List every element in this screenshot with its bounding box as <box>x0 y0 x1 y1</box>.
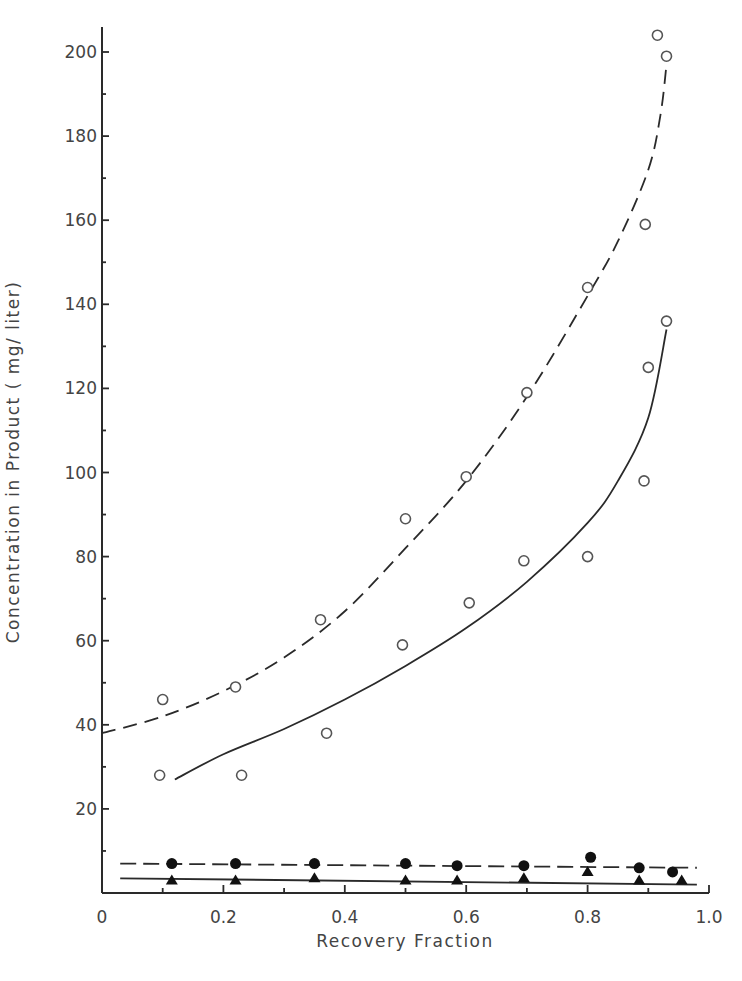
y-tick-label: 100 <box>65 463 97 483</box>
scatter-chart: 2040608010012014016018020000.20.40.60.81… <box>0 0 742 981</box>
open-circle-marker <box>401 514 411 524</box>
y-tick-label: 180 <box>65 126 97 146</box>
filled-circle-marker <box>634 862 645 873</box>
axes: 2040608010012014016018020000.20.40.60.81… <box>65 27 723 927</box>
x-axis-label: Recovery Fraction <box>316 931 494 951</box>
filled-circle-marker <box>667 866 678 877</box>
open-circle-marker <box>662 316 672 326</box>
filled-circle-marker <box>518 860 529 871</box>
filled-triangle-marker <box>400 874 412 884</box>
open-circle-marker <box>522 388 532 398</box>
y-tick-label: 160 <box>65 210 97 230</box>
filled-circle-marker <box>230 858 241 869</box>
open-circle-marker <box>652 30 662 40</box>
open-circle-marker <box>464 598 474 608</box>
x-tick-label: 0.4 <box>331 907 358 927</box>
data-points <box>155 30 688 884</box>
y-tick-label: 60 <box>75 631 97 651</box>
x-tick-label: 0.2 <box>210 907 237 927</box>
y-tick-label: 40 <box>75 715 97 735</box>
filled-triangle-marker <box>451 874 463 884</box>
open-circle-marker <box>316 615 326 625</box>
y-axis-label: Concentration in Product ( mg/ liter) <box>3 281 23 644</box>
filled-circle-marker <box>309 858 320 869</box>
x-tick-label: 1.0 <box>695 907 722 927</box>
filled-circle-marker <box>166 858 177 869</box>
open-circle-marker <box>662 51 672 61</box>
y-tick-label: 80 <box>75 547 97 567</box>
filled-triangle-marker <box>308 872 320 882</box>
open-circle-marker <box>397 640 407 650</box>
filled-triangle-marker <box>518 872 530 882</box>
open-circle-marker <box>640 219 650 229</box>
filled-circle-marker <box>585 852 596 863</box>
fit-curves <box>102 65 697 885</box>
y-tick-label: 120 <box>65 378 97 398</box>
filled-triangle-marker <box>676 874 688 884</box>
open-circle-marker <box>231 682 241 692</box>
y-tick-label: 200 <box>65 42 97 62</box>
open-circle-marker <box>237 770 247 780</box>
y-tick-label: 20 <box>75 799 97 819</box>
open-circle-marker <box>158 695 168 705</box>
filled-circle-marker <box>400 858 411 869</box>
y-tick-label: 140 <box>65 294 97 314</box>
open-circle-marker <box>643 362 653 372</box>
x-tick-label: 0 <box>97 907 108 927</box>
open-circle-marker <box>519 556 529 566</box>
open-circle-marker <box>639 476 649 486</box>
open-circle-marker <box>583 552 593 562</box>
x-tick-label: 0.6 <box>453 907 480 927</box>
x-tick-label: 0.8 <box>574 907 601 927</box>
open-circle-marker <box>155 770 165 780</box>
filled-triangle-marker <box>633 874 645 884</box>
filled-circle-marker <box>452 860 463 871</box>
fit-curve-1 <box>102 65 667 734</box>
open-circle-marker <box>583 282 593 292</box>
open-circle-marker <box>461 472 471 482</box>
open-circle-marker <box>322 728 332 738</box>
